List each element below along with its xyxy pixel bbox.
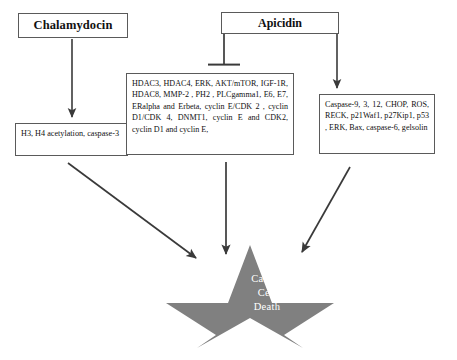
node-hdac-targets-label: HDAC3, HDAC4, ERK, AKT/mTOR, IGF-1R, HDA…: [132, 79, 288, 134]
outcome-line-1: Cancer: [232, 272, 302, 286]
diagram-canvas: Chalamydocin Apicidin H3, H4 acetylation…: [0, 0, 457, 360]
node-hdac-targets: HDAC3, HDAC4, ERK, AKT/mTOR, IGF-1R, HDA…: [126, 73, 294, 155]
node-caspase-targets-label: Caspase-9, 3, 12, CHOP, ROS, RECK, p21Wa…: [325, 100, 429, 132]
connector-and-star-layer: [0, 0, 457, 360]
node-chalamydocin: Chalamydocin: [18, 13, 128, 38]
connector-apicidin-to-hdac-targets: [208, 34, 240, 65]
node-acetylation-label: H3, H4 acetylation, caspase-3: [21, 129, 119, 138]
connector-caspase-targets-to-outcome: [302, 167, 350, 252]
node-apicidin: Apicidin: [221, 12, 339, 34]
outcome-label: Cancer Cell Death: [232, 272, 302, 314]
node-chalamydocin-label: Chalamydocin: [34, 18, 113, 33]
node-acetylation-effects: H3, H4 acetylation, caspase-3: [15, 123, 128, 156]
outcome-line-2: Cell: [232, 286, 302, 300]
outcome-line-3: Death: [232, 300, 302, 314]
node-apicidin-label: Apicidin: [258, 16, 302, 31]
node-caspase-targets: Caspase-9, 3, 12, CHOP, ROS, RECK, p21Wa…: [319, 94, 435, 154]
connector-acetylation-to-outcome: [68, 163, 196, 258]
